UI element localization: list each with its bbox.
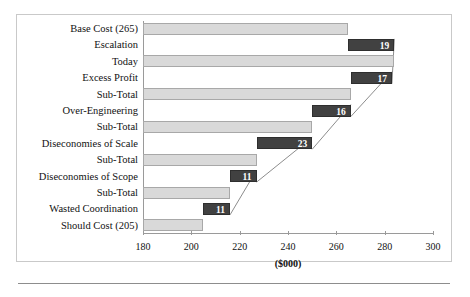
total-bar <box>143 187 230 199</box>
bar-row <box>143 54 433 70</box>
plot-area: 180200220240260280300191716231111 <box>143 21 433 234</box>
category-label: Diseconomies of Scope <box>17 169 142 185</box>
total-bar <box>143 88 351 100</box>
bar-row: 11 <box>143 201 433 217</box>
axis-tick-label: 180 <box>136 241 151 252</box>
category-label: Sub-Total <box>17 185 142 201</box>
bar-value-label: 11 <box>216 204 225 216</box>
axis-tick-label: 260 <box>329 241 344 252</box>
bar-row <box>143 21 433 37</box>
delta-bar: 11 <box>203 203 230 215</box>
category-label: Escalation <box>17 37 142 53</box>
bar-row <box>143 152 433 168</box>
bar-value-label: 17 <box>377 73 387 85</box>
category-label: Over-Engineering <box>17 103 142 119</box>
bar-row <box>143 185 433 201</box>
axis-tick-label: 200 <box>184 241 199 252</box>
category-axis-labels: Base Cost (265)EscalationTodayExcess Pro… <box>17 21 142 234</box>
category-label: Today <box>17 54 142 70</box>
bar-row: 17 <box>143 70 433 86</box>
category-label: Base Cost (265) <box>17 21 142 37</box>
category-label: Sub-Total <box>17 119 142 135</box>
axis-tick <box>433 231 434 235</box>
bar-row <box>143 119 433 135</box>
category-label: Diseconomies of Scale <box>17 136 142 152</box>
delta-bar: 16 <box>312 105 351 117</box>
bar-value-label: 11 <box>243 171 252 183</box>
category-label: Sub-Total <box>17 152 142 168</box>
category-label: Should Cost (205) <box>17 218 142 234</box>
category-label: Excess Profit <box>17 70 142 86</box>
category-label: Wasted Coordination <box>17 201 142 217</box>
delta-bar: 17 <box>351 72 392 84</box>
total-bar <box>143 23 348 35</box>
axis-tick-label: 300 <box>426 241 441 252</box>
category-label: Sub-Total <box>17 87 142 103</box>
bar-row: 16 <box>143 103 433 119</box>
bar-value-label: 16 <box>336 106 346 118</box>
bar-value-label: 23 <box>298 138 308 150</box>
axis-tick-label: 240 <box>281 241 296 252</box>
total-bar <box>143 219 203 231</box>
total-bar <box>143 55 394 67</box>
horizontal-rule <box>18 283 450 284</box>
axis-tick-label: 220 <box>232 241 247 252</box>
bar-row: 19 <box>143 37 433 53</box>
delta-bar: 11 <box>230 170 257 182</box>
plot-wrapper: Base Cost (265)EscalationTodayExcess Pro… <box>17 15 451 261</box>
chart-figure: Base Cost (265)EscalationTodayExcess Pro… <box>16 14 452 262</box>
delta-bar: 19 <box>348 39 394 51</box>
bar-row: 23 <box>143 136 433 152</box>
axis-tick-label: 280 <box>377 241 392 252</box>
bar-row <box>143 87 433 103</box>
axis-title: ($000) <box>143 258 433 269</box>
total-bar <box>143 154 257 166</box>
bar-row: 11 <box>143 169 433 185</box>
delta-bar: 23 <box>257 137 313 149</box>
total-bar <box>143 121 312 133</box>
bar-row <box>143 218 433 234</box>
bar-value-label: 19 <box>380 40 390 52</box>
